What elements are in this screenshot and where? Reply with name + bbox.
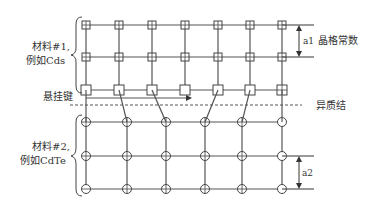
lattice-atom-square <box>180 85 190 95</box>
a1-arrow-down-icon <box>296 51 302 57</box>
material1-label-line2: 例如Cds <box>26 54 65 66</box>
material1-label-line1: 材料#1, <box>32 40 70 52</box>
interface-bond <box>205 90 218 122</box>
a2-arrow-down-icon <box>296 183 302 189</box>
heterojunction-diagram: a1 晶格常数 a2 材料#1, 例如Cds 悬挂键 材料#2, 例如CdTe … <box>0 0 376 210</box>
a1-label: a1 <box>303 36 314 46</box>
a2-arrow-up-icon <box>296 156 302 162</box>
lattice-constant-label: 晶格常数 <box>318 34 358 46</box>
material2-brace <box>71 115 82 196</box>
material1-brace <box>71 17 82 93</box>
a2-label: a2 <box>302 168 313 178</box>
heterojunction-label: 异质结 <box>316 99 346 111</box>
a1-arrow-up-icon <box>296 25 302 31</box>
dangling-bond-label: 悬挂键 <box>43 90 73 102</box>
material2-label-line2: 例如CdTe <box>20 154 66 166</box>
material2-lattice <box>82 118 287 194</box>
interface-bond <box>152 90 166 122</box>
material2-label-line1: 材料#2, <box>32 140 70 152</box>
material1-lattice <box>81 21 287 95</box>
arrow-head-icon <box>186 95 192 101</box>
